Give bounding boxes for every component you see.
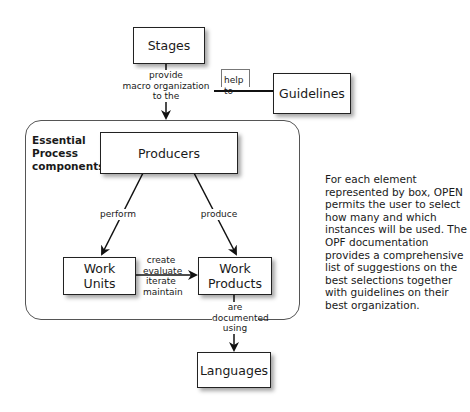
edge-label-perform: perform	[100, 209, 134, 220]
label-line: iterate	[143, 276, 179, 287]
label-text: perform	[100, 209, 136, 219]
label-line: create	[143, 255, 179, 266]
label-line: provide	[118, 70, 214, 81]
label-line: are	[212, 302, 258, 313]
node-work-units[interactable]: Work Units	[63, 257, 136, 295]
node-languages[interactable]: Languages	[197, 352, 271, 388]
edge-label-help-to: help to	[221, 69, 250, 87]
label-line: macro organization	[118, 81, 214, 92]
node-label: Producers	[138, 146, 200, 161]
edge-label-produce: produce	[199, 209, 239, 220]
title-line: Process	[32, 147, 104, 160]
node-label: Work	[84, 261, 116, 276]
edge-label-documented: are documented using	[212, 302, 258, 334]
title-line: components	[32, 160, 104, 173]
label-text: produce	[201, 209, 238, 219]
title-line: Essential	[32, 134, 104, 147]
label-line: documented	[212, 313, 258, 324]
label-line: to the	[118, 91, 214, 102]
node-label: Languages	[200, 363, 268, 378]
label-line: maintain	[143, 287, 179, 298]
label-line: evaluate	[143, 266, 179, 277]
edge-label-provide: provide macro organization to the	[118, 70, 214, 102]
node-stages[interactable]: Stages	[133, 27, 205, 64]
edge-label-create-evaluate: create evaluate iterate maintain	[143, 255, 179, 297]
node-label: Units	[84, 276, 116, 291]
container-title: Essential Process components	[32, 134, 104, 173]
description-text: For each element represented by box, OPE…	[325, 173, 470, 312]
node-guidelines[interactable]: Guidelines	[273, 73, 351, 114]
label-line: using	[212, 323, 258, 334]
node-producers[interactable]: Producers	[100, 132, 238, 174]
node-work-products[interactable]: Work Products	[198, 257, 272, 295]
node-label: Work	[219, 261, 251, 276]
node-label: Guidelines	[279, 86, 345, 101]
node-label: Products	[208, 276, 262, 291]
node-label: Stages	[148, 38, 191, 53]
